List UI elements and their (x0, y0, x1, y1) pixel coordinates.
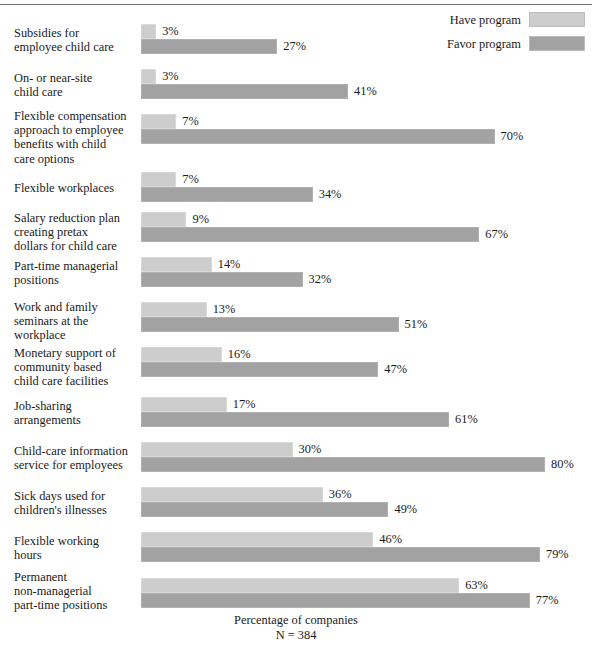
have-program-value-label: 30% (299, 442, 322, 457)
category-label-line: positions (14, 273, 138, 287)
have-program-value-label: 16% (228, 347, 251, 362)
have-program-bar[interactable] (141, 578, 459, 593)
category-label-line: children's illnesses (14, 503, 138, 517)
category-label: Salary reduction plancreating pretaxdoll… (14, 211, 138, 254)
have-program-value-label: 13% (213, 302, 236, 317)
have-program-bar[interactable] (141, 257, 212, 272)
have-program-value-label: 17% (233, 397, 256, 412)
favor-program-bar[interactable] (141, 502, 388, 517)
favor-program-bar[interactable] (141, 272, 303, 287)
top-divider-rule (0, 4, 592, 5)
category-label-line: arrangements (14, 413, 138, 427)
category-label-line: hours (14, 548, 138, 562)
have-program-bar[interactable] (141, 172, 176, 187)
category-label-line: seminars at the (14, 314, 138, 328)
favor-program-value-label: 49% (394, 502, 417, 517)
have-program-bar[interactable] (141, 487, 323, 502)
favor-program-value-label: 77% (536, 593, 559, 608)
chart-footer: Percentage of companies N = 384 (0, 613, 592, 642)
have-program-bar[interactable] (141, 114, 176, 129)
category-label: Sick days used forchildren's illnesses (14, 489, 138, 517)
category-label-line: Subsidies for (14, 26, 138, 40)
have-program-bar[interactable] (141, 442, 293, 457)
have-program-bar[interactable] (141, 302, 207, 317)
favor-program-bar[interactable] (141, 317, 399, 332)
have-program-value-label: 63% (465, 578, 488, 593)
category-label-line: community based (14, 360, 138, 374)
favor-program-value-label: 27% (283, 39, 306, 54)
have-program-bar[interactable] (141, 24, 156, 39)
favor-program-value-label: 47% (384, 362, 407, 377)
category-label-line: Part-time managerial (14, 259, 138, 273)
category-label-line: On- or near-site (14, 71, 138, 85)
favor-program-value-label: 67% (485, 227, 508, 242)
have-program-value-label: 36% (329, 487, 352, 502)
have-program-value-label: 7% (182, 114, 199, 129)
have-program-bar[interactable] (141, 212, 186, 227)
category-label: Work and familyseminars at theworkplace (14, 300, 138, 343)
favor-program-value-label: 34% (319, 187, 342, 202)
favor-program-value-label: 51% (405, 317, 428, 332)
category-label: Flexible workplaces (14, 181, 138, 195)
category-label-line: Flexible workplaces (14, 181, 138, 195)
category-label: Child-care informationservice for employ… (14, 444, 138, 472)
favor-program-value-label: 70% (501, 129, 524, 144)
category-label-line: Work and family (14, 300, 138, 314)
legend-color-swatch (529, 36, 585, 51)
category-label: Flexible compensationapproach to employe… (14, 109, 138, 166)
category-label-line: non-managerial (14, 584, 138, 598)
favor-program-bar[interactable] (141, 593, 530, 608)
category-label-line: benefits with child (14, 137, 138, 151)
legend-item[interactable]: Have program (385, 10, 585, 29)
have-program-value-label: 9% (192, 212, 209, 227)
category-label-line: care options (14, 152, 138, 166)
favor-program-bar[interactable] (141, 547, 540, 562)
category-label-line: Salary reduction plan (14, 211, 138, 225)
category-label-line: Child-care information (14, 444, 138, 458)
favor-program-bar[interactable] (141, 457, 545, 472)
favor-program-bar[interactable] (141, 412, 449, 427)
category-label-line: Job-sharing (14, 399, 138, 413)
category-label-line: part-time positions (14, 598, 138, 612)
x-axis-title: Percentage of companies (0, 613, 592, 628)
category-label: Permanentnon-managerialpart-time positio… (14, 570, 138, 613)
legend-item-label: Favor program (447, 37, 529, 51)
category-label-line: employee child care (14, 40, 138, 54)
category-label-line: child care (14, 85, 138, 99)
favor-program-bar[interactable] (141, 187, 313, 202)
category-label-line: Sick days used for (14, 489, 138, 503)
category-label-line: approach to employee (14, 123, 138, 137)
category-label: Monetary support ofcommunity basedchild … (14, 346, 138, 389)
category-label: Flexible workinghours (14, 534, 138, 562)
category-label-line: dollars for child care (14, 239, 138, 253)
have-program-bar[interactable] (141, 69, 156, 84)
have-program-bar[interactable] (141, 532, 373, 547)
have-program-value-label: 46% (379, 532, 402, 547)
category-label-line: child care facilities (14, 374, 138, 388)
category-label: On- or near-sitechild care (14, 71, 138, 99)
category-label-line: creating pretax (14, 225, 138, 239)
have-program-value-label: 3% (162, 24, 179, 39)
favor-program-value-label: 61% (455, 412, 478, 427)
chart-legend: Have programFavor program (385, 10, 585, 58)
legend-color-swatch (529, 12, 585, 27)
favor-program-bar[interactable] (141, 129, 495, 144)
category-label-line: Flexible compensation (14, 109, 138, 123)
favor-program-bar[interactable] (141, 227, 479, 242)
category-label: Part-time managerialpositions (14, 259, 138, 287)
favor-program-value-label: 32% (309, 272, 332, 287)
category-label-line: Permanent (14, 570, 138, 584)
category-label: Job-sharingarrangements (14, 399, 138, 427)
have-program-bar[interactable] (141, 347, 222, 362)
have-program-bar[interactable] (141, 397, 227, 412)
favor-program-bar[interactable] (141, 362, 378, 377)
chart-container: Have programFavor program Subsidies fore… (0, 0, 592, 649)
category-label-line: Flexible working (14, 534, 138, 548)
category-label: Subsidies foremployee child care (14, 26, 138, 54)
favor-program-bar[interactable] (141, 39, 277, 54)
category-label-line: Monetary support of (14, 346, 138, 360)
legend-item-label: Have program (450, 13, 529, 27)
category-label-line: service for employees (14, 458, 138, 472)
favor-program-bar[interactable] (141, 84, 348, 99)
legend-item[interactable]: Favor program (385, 34, 585, 53)
